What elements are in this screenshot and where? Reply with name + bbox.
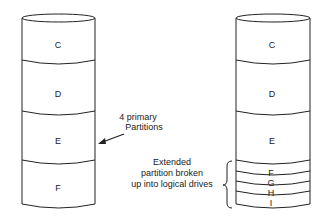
left-partition-f: F [55,183,61,193]
right-partition-e: E [269,136,275,146]
logical-drive-g: G [267,178,274,188]
arrow-icon [98,134,124,144]
primary-label-line1: 4 primary [119,112,157,122]
left-partition-e: E [55,136,61,146]
primary-label-line2: Partitions [125,122,163,132]
logical-drive-h: H [268,188,275,198]
right-partition-c: C [269,40,276,50]
right-partition-d: D [269,89,276,99]
brace-icon [223,161,232,208]
extended-label-line3: up into logical drives [131,179,213,189]
extended-label-line1: Extended [153,157,191,167]
partition-diagram: C D E F 4 primary Partitions C D E F G H… [0,0,324,223]
logical-drive-f: F [268,168,274,178]
left-partition-d: D [55,89,62,99]
left-partition-c: C [55,40,62,50]
logical-drive-i: I [270,198,273,208]
extended-label-line2: partition broken [141,168,203,178]
